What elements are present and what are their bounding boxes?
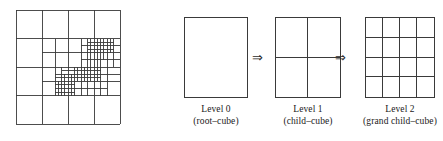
cube-cell [383,18,400,38]
cube-cell [185,18,247,97]
cube-cell [400,18,417,38]
cube-cell [417,77,434,97]
cube-cell [366,77,383,97]
cube-cell [400,77,417,97]
cube-subtitle-level-1: (child–cube) [268,116,348,128]
adaptive-quadtree-mesh [0,0,140,141]
cube-cell [400,58,417,78]
cube-title-level-0: Level 0 [201,104,230,114]
cube-caption-level-0: Level 0 (root–cube) [180,104,252,127]
cube-cell [417,38,434,58]
double-arrow-right-icon-2: ⇒ [335,51,346,64]
quadtree-mesh-svg [0,0,140,141]
cube-caption-level-2: Level 2 (grand child–cube) [356,104,443,127]
cube-refinement-sequence: Level 0 (root–cube) ⇒ Level 1 (child–cub… [180,0,443,141]
octree-refinement-figure: Level 0 (root–cube) ⇒ Level 1 (child–cub… [0,0,443,141]
cube-cell [417,18,434,38]
cube-step-level-1: Level 1 (child–cube) [268,17,348,127]
cube-grid-level-1 [275,17,341,98]
cube-cell [383,38,400,58]
double-arrow-right-icon: ⇒ [252,51,263,64]
cube-cell [366,58,383,78]
cube-cell [276,18,308,58]
cube-cell [276,58,308,98]
cube-step-level-0: Level 0 (root–cube) [180,17,252,127]
cube-subtitle-level-2: (grand child–cube) [356,116,443,128]
cube-cell [400,38,417,58]
cube-grid-level-2 [365,17,435,98]
cube-cell [366,38,383,58]
cube-step-level-2: Level 2 (grand child–cube) [356,17,443,127]
cube-cell [366,18,383,38]
cube-cell [383,58,400,78]
quadtree-grid-lines [16,10,120,124]
cube-cell [383,77,400,97]
cube-subtitle-level-0: (root–cube) [180,116,252,128]
cube-title-level-1: Level 1 [293,104,322,114]
cube-grid-level-0 [184,17,248,98]
cube-title-level-2: Level 2 [385,104,414,114]
cube-cell [417,58,434,78]
cube-caption-level-1: Level 1 (child–cube) [268,104,348,127]
